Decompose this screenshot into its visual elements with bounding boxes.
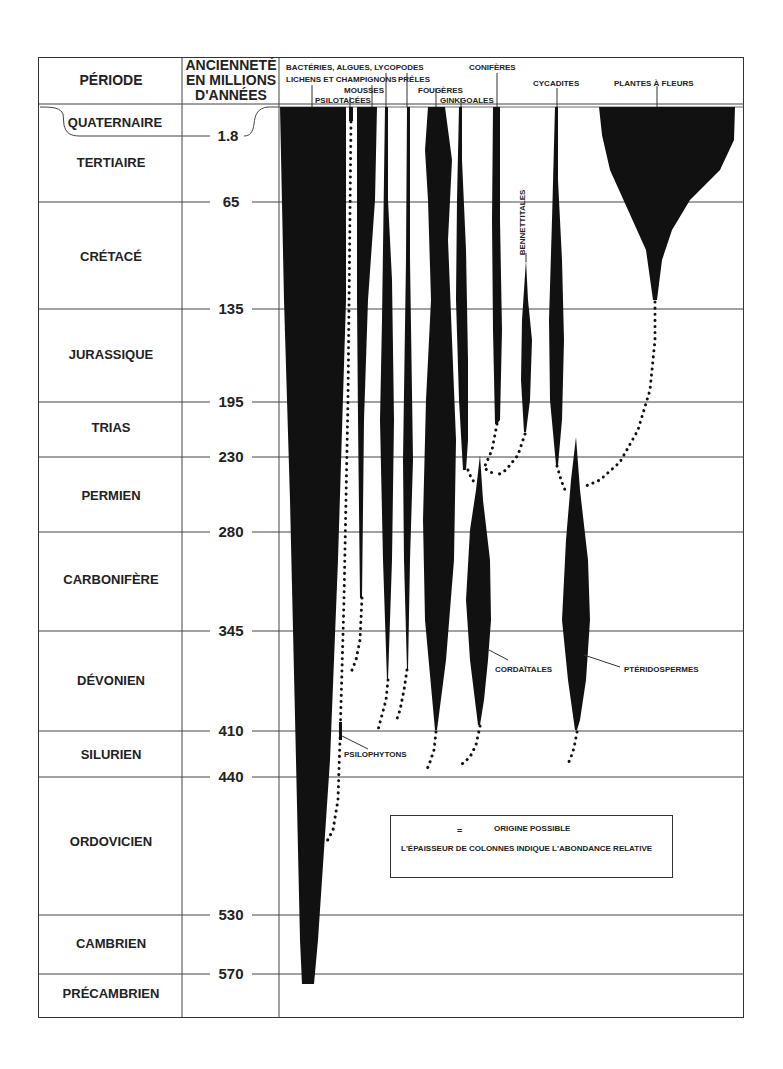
age-65: 65: [212, 193, 250, 210]
period-tertiaire: TERTIAIRE: [40, 155, 182, 170]
label-pteridospermes: PTÉRIDOSPERMES: [624, 665, 699, 674]
age-195: 195: [211, 393, 251, 410]
label-cycadites: CYCADITES: [533, 79, 579, 88]
period-jurassique: JURASSIQUE: [40, 347, 182, 362]
age-530: 530: [211, 906, 251, 923]
label-cordaitales: CORDAÏTALES: [495, 665, 552, 674]
period-quaternaire: QUATERNAIRE: [60, 115, 170, 130]
legend-thickness-note: L'ÉPAISSEUR DE COLONNES INDIQUE L'ABONDA…: [401, 844, 652, 853]
label-bennettitales: BENNETTITALES: [518, 190, 527, 256]
age-280: 280: [211, 523, 251, 540]
label-bacteries-algues-lycopodes: BACTÉRIES, ALGUES, LYCOPODES: [286, 63, 424, 72]
label-fougeres: FOUGÈRES: [418, 86, 463, 95]
age-570: 570: [211, 965, 251, 982]
period-devonien: DÉVONIEN: [40, 673, 182, 688]
period-cretace: CRÉTACÉ: [40, 249, 182, 264]
age-230: 230: [211, 448, 251, 465]
legend-box: = ORIGINE POSSIBLE L'ÉPAISSEUR DE COLONN…: [390, 815, 673, 878]
label-mousses: MOUSSES: [344, 86, 384, 95]
age-column-header: ANCIENNETÉ EN MILLIONS D'ANNÉES: [183, 58, 279, 103]
age-410: 410: [211, 722, 251, 739]
label-psilotacees: PSILOTACÉES: [315, 96, 371, 105]
label-lichens-champignons: LICHENS ET CHAMPIGNONS: [286, 75, 397, 84]
period-column-header: PÉRIODE: [40, 72, 182, 88]
age-header-line2: EN MILLIONS: [183, 73, 279, 88]
age-header-line3: D'ANNÉES: [183, 88, 279, 103]
legend-origin-possible: ORIGINE POSSIBLE: [494, 824, 570, 833]
age-1-8: 1.8: [212, 127, 244, 144]
label-preles: PRÊLES: [398, 75, 430, 84]
age-345: 345: [211, 622, 251, 639]
label-coniferes: CONIFÈRES: [469, 63, 516, 72]
label-ginkgoales: GINKGOALES: [440, 96, 494, 105]
period-ordovicien: ORDOVICIEN: [40, 834, 182, 849]
age-135: 135: [211, 300, 251, 317]
period-permien: PERMIEN: [40, 488, 182, 503]
period-cambrien: CAMBRIEN: [40, 936, 182, 951]
label-plantes-a-fleurs: PLANTES À FLEURS: [614, 79, 694, 88]
period-carbonifere: CARBONIFÈRE: [40, 572, 182, 587]
period-silurien: SILURIEN: [40, 747, 182, 762]
period-trias: TRIAS: [40, 420, 182, 435]
period-precambrien: PRÉCAMBRIEN: [40, 986, 182, 1001]
legend-equals: =: [457, 826, 462, 836]
age-header-line1: ANCIENNETÉ: [183, 58, 279, 73]
label-psilophytons: PSILOPHYTONS: [344, 750, 407, 759]
age-440: 440: [211, 768, 251, 785]
